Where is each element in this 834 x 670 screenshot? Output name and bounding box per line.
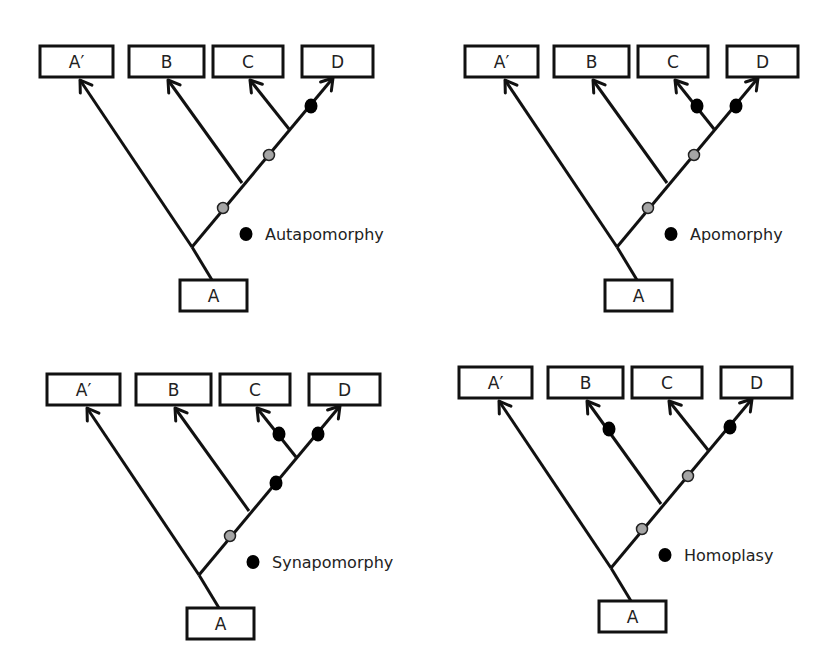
root-label: A [215,614,227,634]
taxon-label: D [750,373,763,393]
taxon-label: D [756,52,769,72]
root-label: A [633,286,645,306]
derived-state-marker [312,427,325,442]
derived-state-marker [603,422,616,437]
legend-marker-icon [659,548,672,562]
branch-b [175,408,249,511]
ancestral-state-marker [218,203,229,214]
root-label: A [627,607,639,627]
taxon-label: A′ [69,52,85,72]
derived-state-marker [273,427,286,442]
branch-b [593,80,667,183]
legend-marker-icon [247,555,260,569]
taxon-label: C [249,380,261,400]
root-branch [611,568,631,601]
ancestral-state-marker [264,150,275,161]
legend-label: Apomorphy [690,225,783,244]
branch-a-prime [87,408,199,575]
ancestral-state-marker [689,150,700,161]
branch-c [669,401,708,450]
root-branch [199,575,219,608]
root-branch [617,247,637,280]
branch-b [587,401,661,504]
cladogram-panel-autapomorphy: A′BCDAAutapomorphy [40,46,384,311]
derived-state-marker [305,99,318,114]
taxon-label: C [661,373,673,393]
branch-a-prime [499,401,611,568]
derived-state-marker [730,99,743,114]
branch-c [250,80,289,129]
branch-a-prime [80,80,192,247]
taxon-label: C [667,52,679,72]
legend-marker-icon [240,227,253,241]
taxon-label: B [586,52,598,72]
taxon-label: D [331,52,344,72]
root-label: A [208,286,220,306]
legend-label: Synapomorphy [272,553,393,572]
cladogram-figure: A′BCDAAutapomorphyA′BCDAApomorphyA′BCDAS… [0,0,834,670]
legend-label: Homoplasy [684,546,773,565]
taxon-label: B [161,52,173,72]
ancestral-state-marker [643,203,654,214]
taxon-label: B [168,380,180,400]
taxon-label: A′ [494,52,510,72]
taxon-label: B [580,373,592,393]
cladogram-panel-homoplasy: A′BCDAHomoplasy [459,367,792,632]
legend-label: Autapomorphy [265,225,384,244]
ancestral-state-marker [225,531,236,542]
branch-b [168,80,242,183]
cladogram-panel-synapomorphy: A′BCDASynapomorphy [47,374,393,639]
root-branch [192,247,212,280]
derived-state-marker [270,476,283,491]
derived-state-marker [724,420,737,435]
branch-a-prime [505,80,617,247]
taxon-label: C [242,52,254,72]
taxon-label: D [338,380,351,400]
legend-marker-icon [665,227,678,241]
taxon-label: A′ [76,380,92,400]
ancestral-state-marker [637,524,648,535]
taxon-label: A′ [488,373,504,393]
derived-state-marker [691,99,704,114]
ancestral-state-marker [683,471,694,482]
cladogram-panel-apomorphy: A′BCDAApomorphy [465,46,798,311]
